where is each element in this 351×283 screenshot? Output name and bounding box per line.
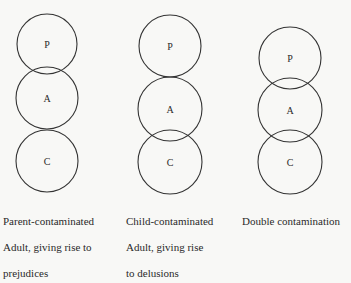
adult-label: A	[166, 104, 174, 115]
caption-line: Parent-contaminated	[3, 215, 94, 228]
caption-line: Double contamination	[242, 215, 340, 228]
child-label: C	[44, 156, 51, 167]
diagram-child-contaminated: P A C	[138, 15, 202, 194]
caption-line: to delusions	[126, 267, 213, 280]
parent-label: P	[44, 39, 50, 50]
parent-label: P	[167, 41, 173, 52]
adult-label: A	[43, 93, 51, 104]
child-label: C	[287, 157, 294, 168]
caption-line: Adult, giving rise to	[3, 241, 94, 254]
caption-double-contamination: Double contamination	[242, 202, 340, 241]
caption-line: Adult, giving rise	[126, 241, 213, 254]
caption-line: prejudices	[3, 267, 94, 280]
caption-line: Child-contaminated	[126, 215, 213, 228]
adult-label: A	[286, 105, 294, 116]
caption-parent-contaminated: Parent-contaminated Adult, giving rise t…	[3, 202, 94, 283]
child-label: C	[167, 157, 174, 168]
diagram-double-contamination: P A C	[258, 27, 322, 194]
parent-label: P	[287, 53, 293, 64]
diagram-parent-contaminated: P A C	[16, 14, 78, 192]
caption-child-contaminated: Child-contaminated Adult, giving rise to…	[126, 202, 213, 283]
